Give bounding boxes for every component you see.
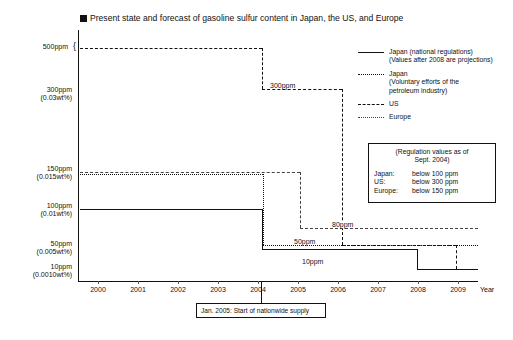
note-region-europe: Europe: xyxy=(374,187,412,196)
legend-swatch-dashdot-icon xyxy=(358,117,384,118)
us-label-300ppm: 300ppm xyxy=(268,82,297,89)
note-value-us: below 300 ppm xyxy=(412,178,490,187)
us-drop-500-300 xyxy=(262,48,263,89)
note-row-japan: Japan: below 100 ppm xyxy=(374,170,490,179)
x-tick-mark-2004 xyxy=(258,281,259,284)
japan-label-10ppm: 10ppm xyxy=(300,258,325,265)
y-tick-100-wt: (0.01wt%) xyxy=(40,210,72,218)
europe-segment-150 xyxy=(80,172,300,173)
note-heading-line1: (Regulation values as of xyxy=(374,148,490,156)
y-tick-300-wt: (0.03wt%) xyxy=(40,94,72,102)
japan-drop-100-10 xyxy=(262,209,263,249)
y-tick-150-ppm: 150ppm xyxy=(47,165,72,173)
japan-segment-100 xyxy=(80,209,262,210)
x-tick-2003: 2003 xyxy=(198,286,238,293)
y-tick-150-wt: (0.015wt%) xyxy=(37,173,72,181)
x-tick-2004: 2004 xyxy=(238,286,278,293)
legend-label-japan-national-1: Japan (national regulations) xyxy=(389,48,493,56)
legend-swatch-dashed-icon xyxy=(358,104,384,105)
japan-drop-2008 xyxy=(417,249,418,269)
x-tick-2001: 2001 xyxy=(118,286,158,293)
x-tick-2000: 2000 xyxy=(78,286,118,293)
note-row-us: US: below 300 ppm xyxy=(374,178,490,187)
note-value-europe: below 150 ppm xyxy=(412,187,490,196)
legend-item-us: US xyxy=(358,100,508,108)
x-tick-mark-2001 xyxy=(138,281,139,284)
legend-item-japan-national: Japan (national regulations) (Values aft… xyxy=(358,48,508,65)
x-axis-unit-label: Year xyxy=(480,286,494,293)
us-segment-300 xyxy=(262,89,342,90)
note-row-europe: Europe: below 150 ppm xyxy=(374,187,490,196)
chart-figure: Present state and forecast of gasoline s… xyxy=(0,0,513,340)
japan-voluntary-segment-50 xyxy=(263,245,478,246)
y-axis-line xyxy=(78,30,79,282)
legend-label-japan-voluntary-1: Japan xyxy=(389,70,459,78)
chart-title: Present state and forecast of gasoline s… xyxy=(80,13,403,23)
note-heading-line2: Sept. 2004) xyxy=(374,156,490,164)
x-tick-mark-2002 xyxy=(178,281,179,284)
note-region-japan: Japan: xyxy=(374,170,412,179)
japan-voluntary-label-50ppm: 50ppm xyxy=(292,238,317,245)
square-bullet-icon xyxy=(80,15,87,22)
japan-segment-10b xyxy=(417,269,478,270)
europe-segment-80 xyxy=(300,228,478,229)
y-tick-100-ppm: 100ppm xyxy=(47,202,72,210)
chart-title-text: Present state and forecast of gasoline s… xyxy=(90,13,403,23)
legend-label-us: US xyxy=(389,100,398,108)
japan-voluntary-drop-150-50 xyxy=(263,174,264,245)
regulation-values-box: (Regulation values as of Sept. 2004) Jap… xyxy=(368,143,496,203)
y-tick-50-wt: (0.005wt%) xyxy=(37,248,72,256)
x-tick-2002: 2002 xyxy=(158,286,198,293)
x-tick-2005: 2005 xyxy=(278,286,318,293)
europe-label-80ppm: 80ppm xyxy=(330,221,355,228)
legend-item-europe: Europe xyxy=(358,113,508,121)
note-region-us: US: xyxy=(374,178,412,187)
y-tick-500-bracket: { xyxy=(73,41,76,51)
japan-segment-10a xyxy=(262,249,417,250)
us-segment-500 xyxy=(80,48,262,49)
callout-box: Jan. 2005: Start of nationwide supply xyxy=(196,303,326,318)
x-tick-mark-2009 xyxy=(458,281,459,284)
x-tick-2008: 2008 xyxy=(398,286,438,293)
chart-legend: Japan (national regulations) (Values aft… xyxy=(358,48,508,127)
legend-swatch-dotted-icon xyxy=(358,74,384,75)
y-tick-500-ppm: 500ppm xyxy=(43,43,68,51)
x-tick-mark-2006 xyxy=(338,281,339,284)
legend-label-japan-national-2: (Values after 2008 are projections) xyxy=(389,56,493,64)
x-tick-mark-2007 xyxy=(378,281,379,284)
europe-drop-150-80 xyxy=(300,172,301,228)
japan-voluntary-segment-150 xyxy=(80,174,263,175)
y-tick-10-wt: (0.0010wt%) xyxy=(33,271,72,279)
x-tick-2007: 2007 xyxy=(358,286,398,293)
legend-label-japan-voluntary-2: (Voluntary efforts of the xyxy=(389,78,459,86)
x-tick-2009: 2009 xyxy=(438,286,478,293)
callout-leader-line xyxy=(261,282,262,304)
legend-label-japan-voluntary-3: petroleum industry) xyxy=(389,87,459,95)
note-value-japan: below 100 ppm xyxy=(412,170,490,179)
y-tick-50-ppm: 50ppm xyxy=(51,240,72,248)
legend-label-europe: Europe xyxy=(389,113,411,121)
callout-text: Jan. 2005: Start of nationwide supply xyxy=(201,307,321,314)
x-tick-2006: 2006 xyxy=(318,286,358,293)
legend-swatch-solid-icon xyxy=(358,52,384,53)
x-tick-mark-2008 xyxy=(418,281,419,284)
us-drop-50-10 xyxy=(456,245,457,269)
x-tick-mark-2005 xyxy=(298,281,299,284)
y-tick-10-ppm: 10ppm xyxy=(51,263,72,271)
x-tick-mark-2003 xyxy=(218,281,219,284)
y-tick-300-ppm: 300ppm xyxy=(47,86,72,94)
x-tick-mark-2000 xyxy=(98,281,99,284)
legend-item-japan-voluntary: Japan (Voluntary efforts of the petroleu… xyxy=(358,70,508,95)
